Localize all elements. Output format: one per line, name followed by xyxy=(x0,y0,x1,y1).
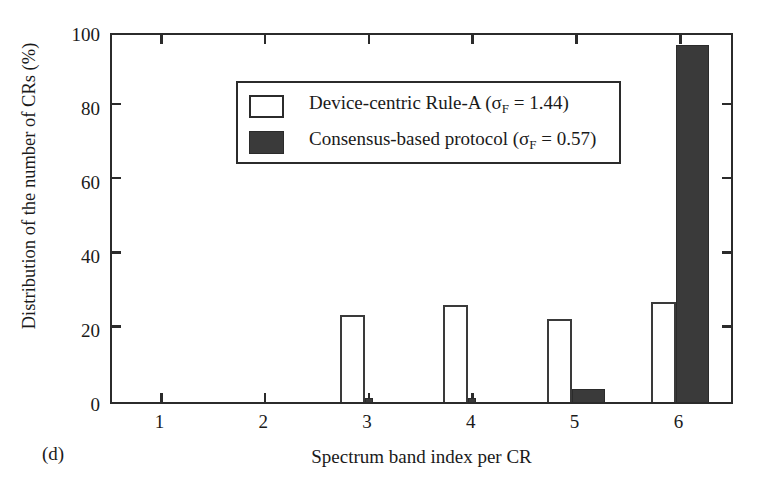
x-tick-label-2: 2 xyxy=(243,412,283,431)
plot-area: Device-centric Rule-A (σF = 1.44) Consen… xyxy=(110,33,733,404)
x-tick-label-5: 5 xyxy=(555,412,595,431)
x-tick-mark-top-3 xyxy=(368,35,371,44)
y-tick-mark-40 xyxy=(112,251,121,254)
bar-open-4 xyxy=(443,305,468,402)
y-tick-label-40: 40 xyxy=(42,247,100,266)
bar-filled-4 xyxy=(468,398,476,402)
legend-label-rule-a-subscript: F xyxy=(502,101,509,116)
chart-legend: Device-centric Rule-A (σF = 1.44) Consen… xyxy=(236,81,621,164)
x-tick-mark-2 xyxy=(264,393,267,402)
y-tick-mark-60 xyxy=(112,177,121,180)
legend-swatch-open-icon xyxy=(249,95,284,118)
bar-filled-5 xyxy=(572,389,605,402)
bar-filled-6 xyxy=(676,45,709,402)
x-tick-mark-top-2 xyxy=(264,35,267,44)
bar-open-5 xyxy=(547,319,572,402)
x-tick-label-6: 6 xyxy=(658,412,698,431)
x-tick-label-1: 1 xyxy=(139,412,179,431)
legend-label-rule-a: Device-centric Rule-A (σF = 1.44) xyxy=(309,93,569,119)
bar-open-6 xyxy=(651,302,676,402)
y-tick-mark-right-40 xyxy=(722,251,731,254)
x-tick-mark-top-1 xyxy=(160,35,163,44)
y-tick-mark-right-20 xyxy=(722,325,731,328)
legend-label-consensus-main: Consensus-based protocol (σ xyxy=(309,128,529,149)
legend-label-consensus-value: = 0.57) xyxy=(537,128,597,149)
legend-swatch-filled-icon xyxy=(249,131,284,154)
legend-label-rule-a-main: Device-centric Rule-A (σ xyxy=(309,92,502,113)
y-tick-label-20: 20 xyxy=(42,321,100,340)
x-axis-title: Spectrum band index per CR xyxy=(110,446,733,468)
bar-filled-3 xyxy=(365,398,373,402)
x-tick-mark-top-4 xyxy=(471,35,474,44)
legend-label-consensus-subscript: F xyxy=(529,137,536,152)
y-tick-label-100: 100 xyxy=(42,25,100,44)
y-tick-label-60: 60 xyxy=(42,173,100,192)
legend-entry-consensus: Consensus-based protocol (σF = 0.57) xyxy=(249,127,596,157)
legend-entry-rule-a: Device-centric Rule-A (σF = 1.44) xyxy=(249,91,569,121)
x-tick-mark-1 xyxy=(160,393,163,402)
y-tick-mark-80 xyxy=(112,103,121,106)
y-tick-label-0: 0 xyxy=(42,395,100,414)
y-tick-mark-right-60 xyxy=(722,177,731,180)
panel-label: (d) xyxy=(42,443,64,465)
y-tick-label-80: 80 xyxy=(42,99,100,118)
x-tick-label-3: 3 xyxy=(347,412,387,431)
y-tick-mark-right-80 xyxy=(722,103,731,106)
bar-open-3 xyxy=(340,315,365,402)
y-tick-mark-20 xyxy=(112,325,121,328)
x-tick-mark-top-5 xyxy=(575,35,578,44)
x-tick-label-4: 4 xyxy=(451,412,491,431)
legend-label-rule-a-value: = 1.44) xyxy=(509,92,569,113)
x-tick-mark-top-6 xyxy=(679,35,682,44)
figure-panel-d: Distribution of the number of CRs (%) 10… xyxy=(0,0,770,488)
legend-label-consensus: Consensus-based protocol (σF = 0.57) xyxy=(309,129,596,155)
y-axis-title: Distribution of the number of CRs (%) xyxy=(19,0,40,381)
